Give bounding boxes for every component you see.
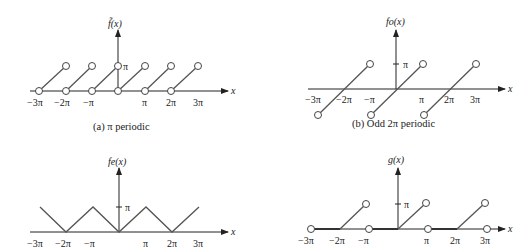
- x-tick: −3π: [298, 235, 314, 246]
- x-tick: −2π: [329, 235, 345, 246]
- x-tick: 3π: [193, 238, 203, 249]
- x-tick: 2π: [167, 238, 177, 249]
- x-tick: −π: [84, 238, 95, 249]
- x-axis-label: x: [230, 226, 236, 237]
- x-axis-label: x: [230, 85, 236, 96]
- y-tick-pi: π: [123, 61, 128, 72]
- x-tick: −3π: [27, 97, 43, 108]
- x-tick: π: [143, 238, 148, 249]
- panel-b-odd-periodic: fo(x) π x −3π −2π −π π 2π 3π (b) Odd 2π …: [305, 16, 513, 130]
- panel-a-pi-periodic: f̃(x) π x −3π −2π −π π 2π 3π (a) π perio…: [27, 17, 236, 133]
- x-tick: π: [419, 94, 424, 105]
- x-axis-label: x: [507, 223, 513, 234]
- y-tick-pi: π: [403, 59, 408, 70]
- x-tick: −2π: [54, 97, 70, 108]
- x-tick: 3π: [193, 97, 203, 108]
- x-tick: −π: [358, 235, 369, 246]
- x-tick: π: [424, 235, 429, 246]
- y-axis-label: g(x): [388, 154, 405, 166]
- x-tick: −3π: [305, 94, 321, 105]
- y-axis-label: fe(x): [108, 156, 127, 168]
- x-tick: 2π: [166, 97, 176, 108]
- x-tick: −2π: [55, 238, 71, 249]
- x-axis-label: x: [507, 83, 513, 94]
- caption: (a) π periodic: [93, 121, 150, 133]
- x-tick: 3π: [480, 235, 490, 246]
- x-tick: −π: [364, 94, 375, 105]
- x-tick: π: [142, 97, 147, 108]
- y-axis-label: f̃(x): [108, 17, 123, 30]
- x-tick: 2π: [450, 235, 460, 246]
- y-tick-pi: π: [404, 199, 409, 210]
- caption: (b) Odd 2π periodic: [352, 118, 435, 130]
- panel-c-even-periodic: fe(x) π x −3π −2π −π π 2π 3π: [27, 156, 236, 249]
- x-tick: 2π: [444, 94, 454, 105]
- figure-canvas: f̃(x) π x −3π −2π −π π 2π 3π (a) π perio…: [0, 0, 532, 250]
- x-tick: −π: [83, 97, 94, 108]
- panel-d-g-function: g(x) π x −3π −2π −π π 2π 3π: [298, 154, 513, 246]
- ramp-segments: [340, 203, 485, 229]
- x-tick: −2π: [336, 94, 352, 105]
- x-tick: −3π: [27, 238, 43, 249]
- y-axis-label: fo(x): [386, 16, 406, 28]
- x-tick: 3π: [470, 94, 480, 105]
- y-tick-pi: π: [125, 202, 130, 213]
